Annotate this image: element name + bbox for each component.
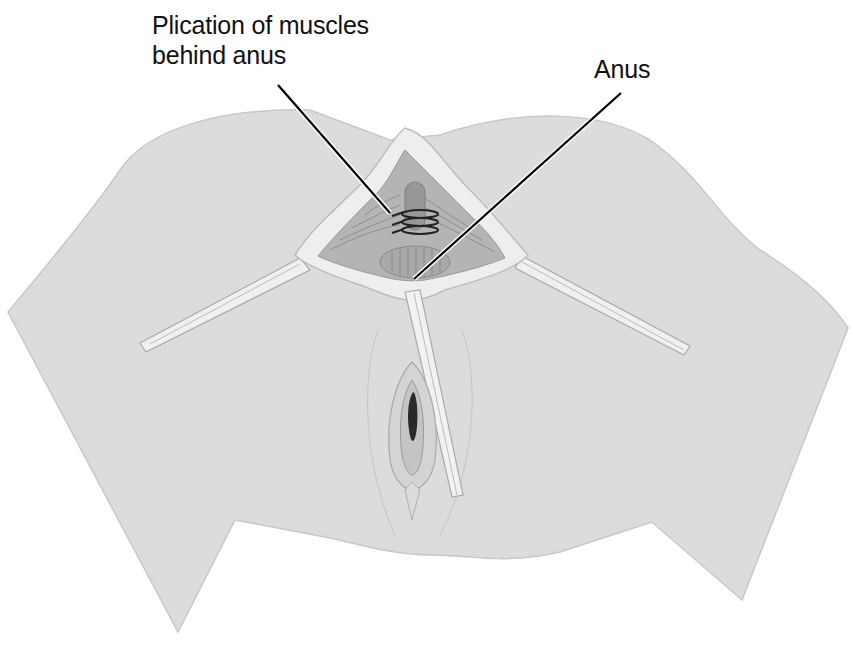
- anus-label: Anus: [594, 54, 650, 84]
- plication-label-line-1: Plication of muscles: [152, 10, 369, 40]
- plication-label-line-2: behind anus: [152, 40, 369, 70]
- anus-label-text: Anus: [594, 54, 650, 84]
- plication-label: Plication of muscles behind anus: [152, 10, 369, 70]
- perineal-illustration: [0, 0, 853, 646]
